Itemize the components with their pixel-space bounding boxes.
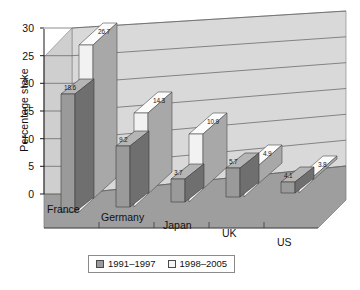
- value-label-us-1998-2005: 3.8: [318, 161, 326, 168]
- y-tick-20: 20: [8, 77, 34, 89]
- y-tick-15: 15: [8, 105, 34, 117]
- legend-label-1991-1997: 1991–1997: [108, 258, 156, 269]
- x-label-germany: Germany: [101, 211, 144, 223]
- plot-area: [0, 0, 360, 290]
- value-label-us-1991-1997: 4.1: [284, 172, 292, 179]
- legend-label-1998-2005: 1998–2005: [180, 258, 228, 269]
- legend-entry-1991-1997: 1991–1997: [96, 258, 156, 269]
- x-label-japan: Japan: [163, 219, 192, 231]
- value-label-japan-1998-2005: 10.9: [207, 118, 219, 125]
- legend-swatch-icon-1991-1997: [96, 260, 104, 268]
- legend-swatch-icon-1998-2005: [168, 260, 176, 268]
- value-label-france-1991-1997: 18.6: [64, 84, 76, 91]
- y-axis: [40, 28, 44, 194]
- value-label-germany-1998-2005: 14.3: [153, 97, 165, 104]
- value-label-france-1998-2005: 26.7: [98, 28, 110, 35]
- y-tick-0: 0: [8, 188, 34, 200]
- x-label-us: US: [277, 236, 292, 248]
- value-label-uk-1998-2005: 4.9: [263, 150, 271, 157]
- x-label-uk: UK: [222, 227, 237, 239]
- value-label-uk-1991-1997: 5.7: [229, 158, 237, 165]
- y-tick-25: 25: [8, 50, 34, 62]
- x-label-france: France: [47, 203, 80, 215]
- bar-chart: Percentage stake 30 25 20 15 10 5 0 Fran…: [0, 0, 360, 290]
- y-tick-10: 10: [8, 133, 34, 145]
- chart-legend: 1991–1997 1998–2005: [88, 255, 235, 273]
- y-tick-30: 30: [8, 22, 34, 34]
- y-tick-5: 5: [8, 160, 34, 172]
- legend-entry-1998-2005: 1998–2005: [168, 258, 228, 269]
- value-label-japan-1991-1997: 3.7: [174, 169, 182, 176]
- bar-france-1991-1997: [61, 79, 94, 212]
- value-label-germany-1991-1997: 9.2: [119, 136, 127, 143]
